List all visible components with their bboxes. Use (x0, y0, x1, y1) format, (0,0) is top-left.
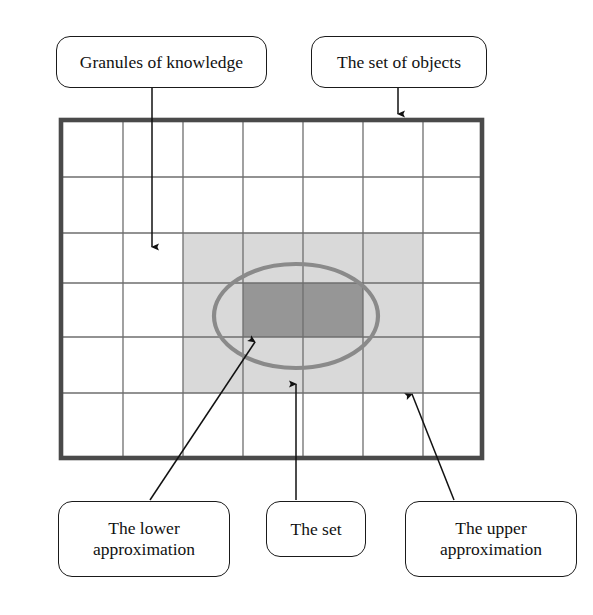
connector-upper (412, 394, 454, 500)
label-the-set-of-objects: The set of objects (311, 36, 487, 88)
label-upper-text: The upper approximation (434, 518, 548, 559)
label-the-upper-approximation: The upper approximation (405, 501, 577, 577)
label-the-set: The set (266, 501, 366, 557)
label-lower-text: The lower approximation (87, 518, 201, 559)
diagram-canvas: Granules of knowledge The set of objects… (0, 0, 593, 615)
label-granules-of-knowledge: Granules of knowledge (56, 36, 267, 88)
label-set-text: The set (284, 519, 347, 540)
label-objects-text: The set of objects (331, 52, 467, 73)
label-the-lower-approximation: The lower approximation (58, 501, 230, 577)
label-granules-text: Granules of knowledge (74, 52, 249, 73)
